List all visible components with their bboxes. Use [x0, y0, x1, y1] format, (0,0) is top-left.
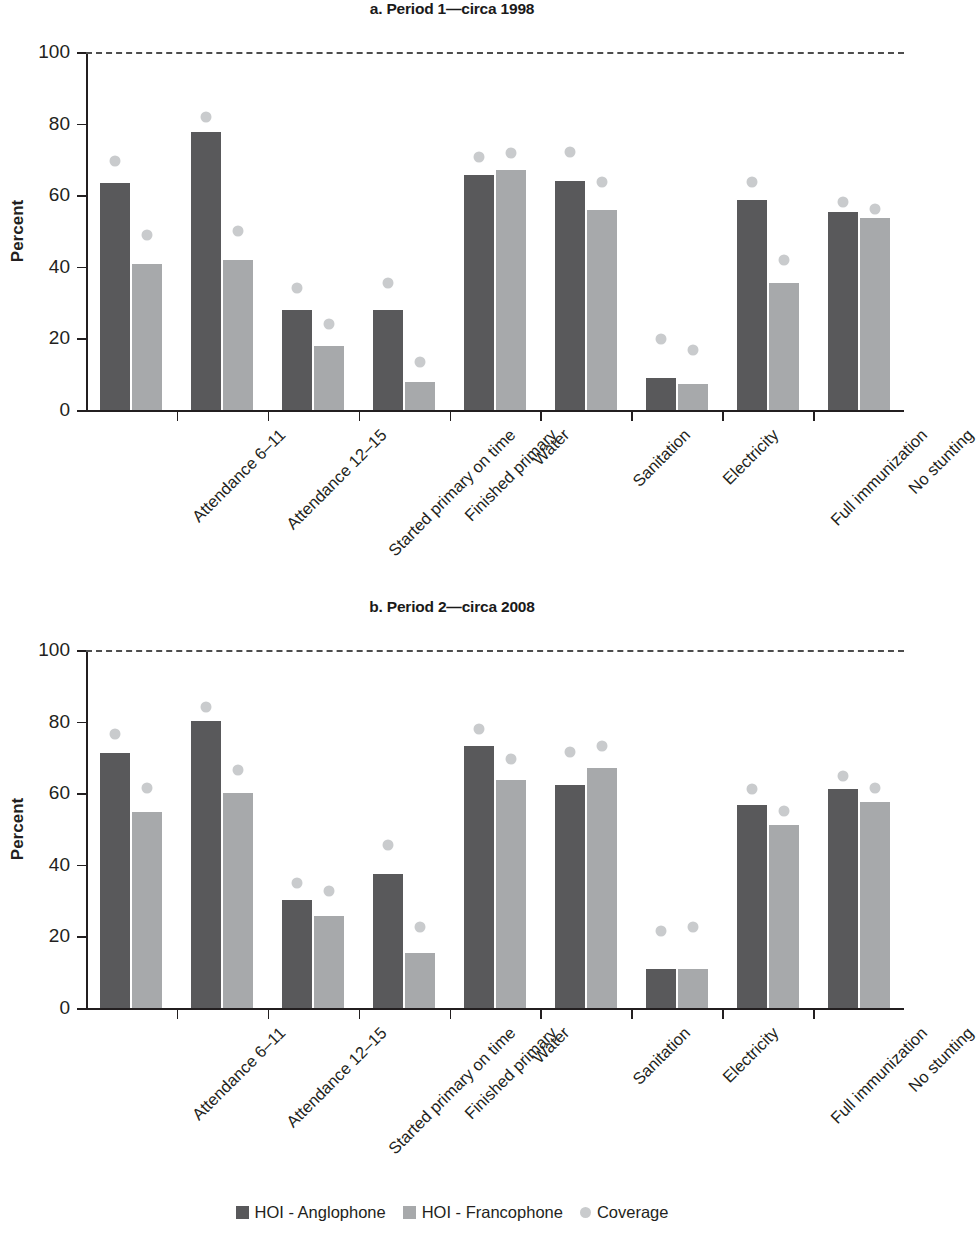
x-axis-group-separator: [631, 1008, 633, 1019]
bar-hoi-anglophone: [191, 132, 221, 410]
x-axis-category-label: Attendance 6–11: [190, 1024, 289, 1123]
y-axis-tick-mark: [77, 195, 86, 197]
bar-hoi-anglophone: [646, 969, 676, 1008]
x-axis-group-separator: [722, 410, 724, 421]
bar-hoi-anglophone: [646, 378, 676, 410]
y-axis-tick: 40: [77, 267, 86, 269]
coverage-dot-francophone: [233, 765, 244, 776]
legend-label: HOI - Francophone: [422, 1203, 563, 1222]
legend-item: Coverage: [580, 1203, 669, 1222]
legend-square-icon: [403, 1206, 416, 1219]
bar-hoi-anglophone: [373, 310, 403, 410]
coverage-dot-francophone: [596, 740, 607, 751]
y-axis-tick: 20: [77, 338, 86, 340]
y-axis-tick-mark: [77, 52, 86, 54]
y-axis-tick-mark: [77, 793, 86, 795]
coverage-dot-anglophone: [201, 701, 212, 712]
bar-hoi-francophone: [132, 264, 162, 410]
coverage-dot-anglophone: [564, 147, 575, 158]
coverage-dot-anglophone: [292, 878, 303, 889]
bar-hoi-anglophone: [282, 900, 312, 1008]
coverage-dot-francophone: [142, 783, 153, 794]
coverage-dot-anglophone: [383, 840, 394, 851]
y-axis-tick: 100: [77, 52, 86, 54]
bar-hoi-francophone: [496, 170, 526, 410]
x-axis-group-separator: [450, 1008, 452, 1019]
coverage-dot-francophone: [506, 148, 517, 159]
x-axis-group-separator: [177, 410, 179, 421]
bar-hoi-francophone: [496, 780, 526, 1008]
panel-b-plot-area: Percent 020406080100Attendance 6–11Atten…: [86, 650, 904, 1008]
y-axis-tick-label: 80: [49, 114, 70, 133]
bar-hoi-francophone: [314, 916, 344, 1008]
bar-hoi-francophone: [769, 283, 799, 410]
bar-hoi-francophone: [860, 802, 890, 1008]
bar-hoi-francophone: [587, 768, 617, 1008]
coverage-dot-francophone: [596, 176, 607, 187]
coverage-dot-anglophone: [292, 283, 303, 294]
y-axis-tick: 40: [77, 865, 86, 867]
y-axis-tick-mark: [77, 722, 86, 724]
coverage-dot-anglophone: [837, 197, 848, 208]
x-axis-category-label: Attendance 6–11: [190, 426, 289, 525]
bar-hoi-anglophone: [828, 212, 858, 410]
bar-hoi-anglophone: [373, 874, 403, 1008]
panel-a-plot-area: Percent 020406080100Attendance 6–11Atten…: [86, 52, 904, 410]
coverage-dot-anglophone: [746, 176, 757, 187]
y-axis-tick-mark: [77, 410, 86, 412]
coverage-dot-anglophone: [383, 277, 394, 288]
coverage-dot-francophone: [415, 357, 426, 368]
bar-hoi-anglophone: [464, 746, 494, 1008]
bar-hoi-anglophone: [737, 200, 767, 411]
y-axis-tick-mark: [77, 650, 86, 652]
y-axis-tick-mark: [77, 1008, 86, 1010]
bar-hoi-anglophone: [282, 310, 312, 410]
coverage-dot-francophone: [778, 806, 789, 817]
y-axis-tick-mark: [77, 338, 86, 340]
legend-label: Coverage: [597, 1203, 669, 1222]
coverage-dot-anglophone: [474, 151, 485, 162]
bar-hoi-francophone: [587, 210, 617, 410]
y-axis-tick-label: 40: [49, 257, 70, 276]
y-axis-tick-label: 60: [49, 185, 70, 204]
legend-square-icon: [236, 1206, 249, 1219]
y-axis-tick: 100: [77, 650, 86, 652]
coverage-dot-francophone: [687, 921, 698, 932]
x-axis-category-label: Water: [530, 426, 572, 468]
coverage-dot-francophone: [869, 203, 880, 214]
y-axis-tick-label: 0: [59, 998, 70, 1017]
bar-hoi-francophone: [132, 812, 162, 1008]
y-axis-tick-mark: [77, 936, 86, 938]
panel-a-title: a. Period 1—circa 1998: [0, 0, 904, 18]
x-axis-category-label: Attendance 12–15: [284, 1024, 390, 1130]
panel-b-title: b. Period 2—circa 2008: [0, 598, 904, 616]
y-axis-line: [86, 52, 88, 410]
chart-panel-b: b. Period 2—circa 2008 Percent 020406080…: [0, 598, 904, 1178]
legend-circle-icon: [580, 1207, 591, 1218]
x-axis-category-label: Sanitation: [629, 426, 693, 490]
coverage-dot-anglophone: [655, 926, 666, 937]
x-axis-group-separator: [722, 1008, 724, 1019]
y-axis-tick-label: 60: [49, 783, 70, 802]
coverage-dot-anglophone: [474, 723, 485, 734]
y-axis-line: [86, 650, 88, 1008]
y-axis-tick-label: 100: [38, 42, 70, 61]
bar-hoi-francophone: [314, 346, 344, 410]
bar-hoi-francophone: [405, 382, 435, 410]
x-axis-category-label: Attendance 12–15: [284, 426, 390, 532]
bar-hoi-anglophone: [464, 175, 494, 410]
y-axis-title: Percent: [8, 798, 28, 860]
legend-item: HOI - Francophone: [403, 1203, 563, 1222]
x-axis-category-label: Water: [530, 1024, 572, 1066]
coverage-dot-anglophone: [110, 728, 121, 739]
bar-hoi-francophone: [769, 825, 799, 1008]
coverage-dot-anglophone: [655, 334, 666, 345]
legend-item: HOI - Anglophone: [236, 1203, 386, 1222]
y-axis-tick: 20: [77, 936, 86, 938]
coverage-dot-francophone: [324, 886, 335, 897]
y-axis-tick-label: 40: [49, 855, 70, 874]
bar-hoi-anglophone: [100, 753, 130, 1008]
y-axis-tick-label: 100: [38, 640, 70, 659]
bar-hoi-anglophone: [828, 789, 858, 1008]
y-axis-tick-label: 20: [49, 329, 70, 348]
